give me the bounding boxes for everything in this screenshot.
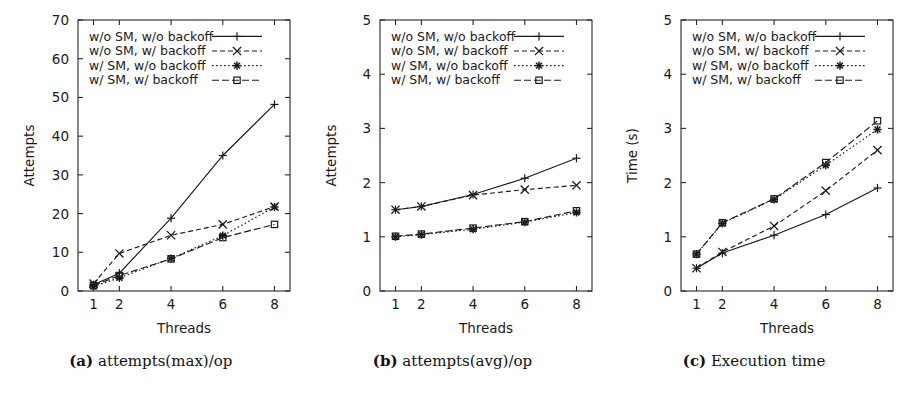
plot-b: 01234512468ThreadsAttemptsw/o SM, w/o ba… — [302, 0, 604, 340]
y-tick-label: 4 — [362, 66, 371, 82]
y-tick-label: 5 — [362, 12, 371, 28]
y-tick-label: 60 — [52, 51, 69, 67]
y-tick-label: 2 — [664, 175, 673, 191]
series-line-3 — [697, 129, 878, 254]
y-tick-label: 4 — [664, 66, 673, 82]
y-tick-label: 2 — [362, 175, 371, 191]
caption-a: (a) attempts(max)/op — [0, 340, 302, 396]
series-line-1 — [697, 188, 878, 268]
caption-b-text: attempts(avg)/op — [398, 352, 533, 370]
data-point-plus-marker — [520, 174, 528, 182]
caption-a-tag: (a) — [69, 352, 93, 370]
x-tick-label: 4 — [770, 296, 779, 312]
data-point-cross-marker — [115, 249, 123, 257]
series-line-4 — [697, 121, 878, 254]
caption-b-tag: (b) — [373, 352, 398, 370]
plot-a: 01020304050607012468ThreadsAttemptsw/o S… — [0, 0, 302, 340]
data-point-cross-marker — [219, 220, 227, 228]
y-tick-label: 0 — [362, 283, 371, 299]
y-tick-label: 70 — [52, 12, 69, 28]
x-tick-label: 2 — [115, 296, 124, 312]
caption-c-text: Execution time — [706, 352, 825, 370]
caption-a-text: attempts(max)/op — [93, 352, 232, 370]
data-point-plus-marker — [572, 154, 580, 162]
y-tick-label: 1 — [362, 229, 371, 245]
x-tick-label: 4 — [167, 296, 176, 312]
legend-label-2: w/o SM, w/ backoff — [692, 43, 809, 58]
data-point-cross-marker — [874, 146, 882, 154]
y-axis-title: Attempts — [323, 125, 339, 187]
y-tick-label: 5 — [664, 12, 673, 28]
data-point-cross-marker — [167, 231, 175, 239]
legend-label-1: w/o SM, w/o backoff — [89, 29, 214, 44]
figure-three-panel-chart: 01020304050607012468ThreadsAttemptsw/o S… — [0, 0, 905, 396]
y-tick-label: 3 — [362, 120, 371, 136]
series-line-3 — [94, 207, 275, 286]
data-point-plus-marker — [770, 231, 778, 239]
legend-asterisk-marker — [836, 62, 844, 70]
legend-label-4: w/ SM, w/ backoff — [692, 72, 801, 87]
data-point-cross-marker — [770, 222, 778, 230]
y-tick-label: 10 — [52, 244, 69, 260]
y-tick-label: 1 — [664, 229, 673, 245]
caption-b: (b) attempts(avg)/op — [302, 340, 604, 396]
legend-label-3: w/ SM, w/o backoff — [89, 58, 206, 73]
x-tick-label: 8 — [270, 296, 279, 312]
y-tick-label: 0 — [60, 283, 69, 299]
chart-panel-a: 01020304050607012468ThreadsAttemptsw/o S… — [0, 0, 302, 340]
x-tick-label: 1 — [391, 296, 400, 312]
x-tick-label: 1 — [89, 296, 98, 312]
legend-label-2: w/o SM, w/ backoff — [391, 43, 508, 58]
y-tick-label: 3 — [664, 120, 673, 136]
x-tick-label: 2 — [417, 296, 426, 312]
x-axis-title: Threads — [156, 320, 211, 336]
x-axis-title: Threads — [759, 320, 814, 336]
x-tick-label: 6 — [822, 296, 831, 312]
x-tick-label: 1 — [693, 296, 702, 312]
caption-c-tag: (c) — [683, 352, 706, 370]
data-point-asterisk-marker — [270, 203, 278, 211]
legend-asterisk-marker — [233, 62, 241, 70]
chart-panels-row: 01020304050607012468ThreadsAttemptsw/o S… — [0, 0, 905, 340]
plot-c: 01234512468ThreadsTime (s)w/o SM, w/o ba… — [603, 0, 905, 340]
x-tick-label: 6 — [218, 296, 227, 312]
y-tick-label: 50 — [52, 89, 69, 105]
x-tick-label: 4 — [468, 296, 477, 312]
data-point-plus-marker — [874, 184, 882, 192]
y-axis-title: Attempts — [21, 125, 37, 187]
legend-label-1: w/o SM, w/o backoff — [391, 29, 516, 44]
x-axis-title: Threads — [458, 320, 513, 336]
series-line-1 — [395, 158, 576, 209]
data-point-cross-marker — [822, 187, 830, 195]
y-tick-label: 30 — [52, 167, 69, 183]
y-tick-label: 20 — [52, 206, 69, 222]
series-line-1 — [94, 104, 275, 284]
captions-row: (a) attempts(max)/op (b) attempts(avg)/o… — [0, 340, 905, 396]
data-point-plus-marker — [822, 210, 830, 218]
x-tick-label: 6 — [520, 296, 529, 312]
legend-label-1: w/o SM, w/o backoff — [692, 29, 817, 44]
y-tick-label: 0 — [664, 283, 673, 299]
y-axis-title: Time (s) — [624, 128, 640, 184]
legend-asterisk-marker — [535, 62, 543, 70]
legend-label-2: w/o SM, w/ backoff — [89, 43, 206, 58]
legend-label-4: w/ SM, w/ backoff — [89, 72, 198, 87]
y-tick-label: 40 — [52, 128, 69, 144]
x-tick-label: 8 — [572, 296, 581, 312]
chart-panel-b: 01234512468ThreadsAttemptsw/o SM, w/o ba… — [302, 0, 604, 340]
x-tick-label: 8 — [874, 296, 883, 312]
legend-label-3: w/ SM, w/o backoff — [391, 58, 508, 73]
chart-panel-c: 01234512468ThreadsTime (s)w/o SM, w/o ba… — [603, 0, 905, 340]
x-tick-label: 2 — [718, 296, 727, 312]
legend-label-3: w/ SM, w/o backoff — [692, 58, 809, 73]
caption-c: (c) Execution time — [603, 340, 905, 396]
legend-label-4: w/ SM, w/ backoff — [391, 72, 500, 87]
data-point-asterisk-marker — [874, 125, 882, 133]
